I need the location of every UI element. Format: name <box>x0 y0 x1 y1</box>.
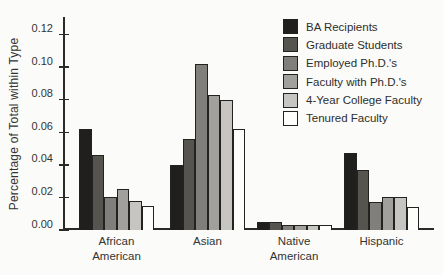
bar <box>79 129 92 230</box>
legend-item: 4-Year College Faculty <box>283 93 422 108</box>
y-tick <box>59 66 69 68</box>
bar <box>208 95 221 230</box>
y-tick <box>59 164 69 166</box>
y-tick-label: 0.06 <box>14 120 53 132</box>
bar <box>344 153 357 230</box>
legend: BA RecipientsGraduate StudentsEmployed P… <box>283 19 422 129</box>
y-tick <box>59 197 69 199</box>
legend-swatch <box>283 19 298 34</box>
y-tick <box>59 99 69 101</box>
legend-label: Employed Ph.D.'s <box>306 57 397 69</box>
bar <box>104 197 117 230</box>
bar <box>129 201 142 230</box>
bar <box>117 189 130 230</box>
bar <box>170 165 183 230</box>
legend-item: Tenured Faculty <box>283 111 422 126</box>
legend-swatch <box>283 111 298 126</box>
bar <box>183 139 196 230</box>
bar <box>233 129 246 230</box>
y-tick <box>59 132 69 134</box>
legend-label: 4-Year College Faculty <box>306 94 422 106</box>
bar <box>294 225 307 230</box>
bar <box>257 222 270 230</box>
y-tick-label: 0.00 <box>14 218 53 230</box>
y-tick <box>59 34 69 36</box>
bar <box>92 155 105 230</box>
bar-chart-figure: Percentage of Total within Type 0.000.02… <box>0 0 443 275</box>
y-tick-label: 0.08 <box>14 87 53 99</box>
legend-label: Graduate Students <box>306 39 403 51</box>
bar <box>142 206 155 230</box>
bar <box>319 225 332 230</box>
legend-swatch <box>283 93 298 108</box>
y-tick <box>59 229 69 231</box>
legend-item: BA Recipients <box>283 19 422 34</box>
bar <box>307 225 320 230</box>
legend-item: Employed Ph.D.'s <box>283 56 422 71</box>
legend-item: Graduate Students <box>283 37 422 52</box>
bar <box>282 225 295 230</box>
legend-swatch <box>283 74 298 89</box>
y-tick-label: 0.12 <box>14 22 53 34</box>
legend-label: Tenured Faculty <box>306 112 388 124</box>
y-tick-label: 0.02 <box>14 185 53 197</box>
bar <box>369 202 382 230</box>
bar <box>394 197 407 230</box>
y-tick-label: 0.04 <box>14 152 53 164</box>
bar <box>195 64 208 230</box>
legend-label: Faculty with Ph.D.'s <box>306 76 407 88</box>
y-tick-label: 0.10 <box>14 55 53 67</box>
bar <box>269 222 282 230</box>
legend-swatch <box>283 37 298 52</box>
category-label: Hispanic <box>327 234 437 249</box>
bar <box>382 197 395 230</box>
bar <box>407 207 420 230</box>
legend-item: Faculty with Ph.D.'s <box>283 74 422 89</box>
bar <box>220 100 233 230</box>
legend-label: BA Recipients <box>306 21 378 33</box>
bar <box>357 170 370 230</box>
legend-swatch <box>283 56 298 71</box>
